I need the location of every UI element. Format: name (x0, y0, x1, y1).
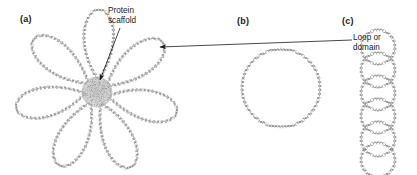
loop-or-domain-callout-line1: Loop or (353, 33, 381, 43)
figure-artwork (0, 0, 417, 175)
dna-loop-domain-figure: (a) (b) (c) Protein scaffold Loop or dom… (0, 0, 417, 175)
panel-a-rosette (13, 10, 180, 174)
panel-c-loop (361, 143, 395, 175)
protein-scaffold-callout-line1: Protein (108, 6, 136, 16)
protein-scaffold-callout-line2: scaffold (108, 16, 136, 26)
panel-b-single-loop (242, 49, 320, 127)
panel-a-loop (46, 97, 102, 171)
loop-or-domain-callout-line2: domain (353, 43, 381, 53)
panel-a-loop (88, 99, 144, 173)
panel-a-loop (13, 79, 86, 123)
panel-label-b: (b) (237, 16, 249, 26)
loop-or-domain-callout: Loop or domain (353, 33, 381, 52)
panel-label-c: (c) (342, 16, 354, 26)
protein-scaffold-core (82, 77, 112, 107)
loop-or-domain-leader-line (160, 40, 352, 47)
panel-c-loop (361, 122, 395, 156)
protein-scaffold-leader-line (100, 28, 120, 80)
panel-label-a: (a) (20, 14, 32, 24)
panel-a-loop (107, 82, 180, 126)
protein-scaffold-callout: Protein scaffold (108, 6, 136, 25)
